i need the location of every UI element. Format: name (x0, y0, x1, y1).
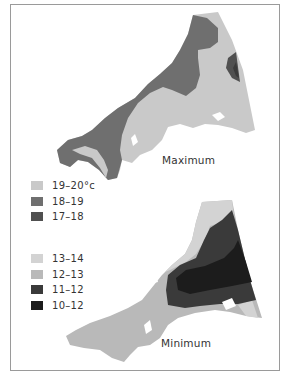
legend-item: 10–12 (31, 298, 84, 314)
legend-item: 19–20°c (31, 178, 95, 194)
legend-label: 13–14 (52, 253, 84, 264)
legend-label: 17–18 (52, 211, 84, 222)
legend-label: 12–13 (52, 269, 84, 280)
legend-label: 10–12 (52, 300, 84, 311)
legend-item: 11–12 (31, 282, 84, 298)
legend-maximum: 19–20°c 18–19 17–18 (31, 178, 95, 225)
legend-item: 13–14 (31, 251, 84, 267)
map-maximum (57, 12, 255, 180)
map-label-minimum: Minimum (161, 337, 211, 349)
legend-label: 18–19 (52, 196, 84, 207)
legend-item: 18–19 (31, 194, 95, 210)
legend-swatch (31, 301, 43, 310)
legend-label: 19–20°c (52, 180, 95, 191)
legend-item: 17–18 (31, 209, 95, 225)
legend-swatch (31, 285, 43, 294)
legend-swatch (31, 270, 43, 279)
legend-minimum: 13–14 12–13 11–12 10–12 (31, 251, 84, 313)
legend-swatch (31, 181, 43, 190)
legend-swatch (31, 212, 43, 221)
map-label-maximum: Maximum (162, 154, 215, 166)
legend-label: 11–12 (52, 284, 84, 295)
legend-swatch (31, 197, 43, 206)
legend-item: 12–13 (31, 267, 84, 283)
legend-swatch (31, 254, 43, 263)
